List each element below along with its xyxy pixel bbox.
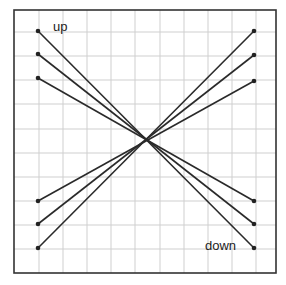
label-up: up — [53, 19, 67, 34]
label-down: down — [205, 238, 236, 253]
crossing-lines-diagram — [0, 0, 286, 285]
